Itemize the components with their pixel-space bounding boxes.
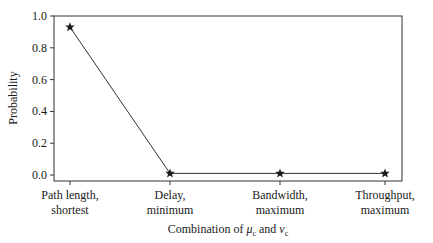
- y-tick-label: 0.4: [32, 104, 47, 118]
- star-marker-icon: [380, 168, 390, 177]
- y-tick-label: 0.2: [32, 136, 47, 150]
- star-marker-icon: [165, 168, 175, 177]
- star-marker-icon: [65, 22, 75, 31]
- plot-frame: [54, 16, 402, 181]
- y-tick-label: 0.6: [32, 73, 47, 87]
- x-axis: Path length,shortestDelay,minimumBandwid…: [41, 181, 415, 217]
- data-markers: [65, 22, 390, 177]
- x-axis-label: Combination of μc and νc: [168, 222, 289, 238]
- probability-line-chart: 0.00.20.40.60.81.0 Path length,shortestD…: [0, 0, 433, 243]
- x-tick-label: Bandwidth,: [252, 188, 308, 202]
- y-tick-label: 0.8: [32, 41, 47, 55]
- x-tick-label: Path length,: [41, 188, 98, 202]
- x-tick-label: maximum: [361, 203, 410, 217]
- x-tick-label: shortest: [51, 203, 89, 217]
- y-axis: 0.00.20.40.60.81.0: [32, 9, 54, 182]
- star-marker-icon: [275, 168, 285, 177]
- y-axis-label: Probability: [6, 71, 20, 124]
- data-line: [70, 27, 385, 173]
- x-tick-label: Delay,: [155, 188, 186, 202]
- y-tick-label: 1.0: [32, 9, 47, 23]
- x-tick-label: minimum: [147, 203, 194, 217]
- x-tick-label: maximum: [256, 203, 305, 217]
- y-tick-label: 0.0: [32, 168, 47, 182]
- x-tick-label: Throughput,: [355, 188, 415, 202]
